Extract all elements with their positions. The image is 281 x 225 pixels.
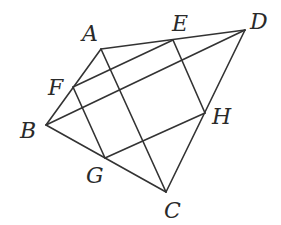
label-A: A: [80, 21, 98, 46]
quadrilateral-diagram: A E D F B H G C: [0, 0, 281, 225]
diagonal-AC: [101, 49, 166, 192]
segment-GH: [105, 113, 205, 158]
segment-CB: [46, 125, 166, 192]
label-E: E: [171, 11, 188, 36]
label-B: B: [19, 118, 36, 143]
label-C: C: [164, 198, 181, 223]
segment-DC: [166, 30, 245, 192]
label-G: G: [86, 163, 104, 188]
segment-FG: [73, 87, 105, 158]
label-H: H: [211, 104, 232, 129]
segment-EF: [73, 40, 173, 87]
label-D: D: [249, 9, 268, 34]
label-F: F: [47, 75, 64, 100]
